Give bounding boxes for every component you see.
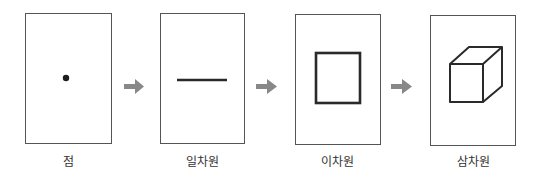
label-point: 점 xyxy=(18,152,118,169)
arrow-right-icon xyxy=(391,79,412,94)
label-three-dimension: 삼차원 xyxy=(423,152,523,169)
dot-shape xyxy=(63,75,69,81)
square-shape xyxy=(316,53,360,103)
label-one-dimension: 일차원 xyxy=(152,152,252,169)
arrow-right-icon xyxy=(124,79,144,94)
arrow-right-icon xyxy=(256,79,277,94)
label-two-dimension: 이차원 xyxy=(287,152,387,169)
cube-shape xyxy=(450,47,502,102)
